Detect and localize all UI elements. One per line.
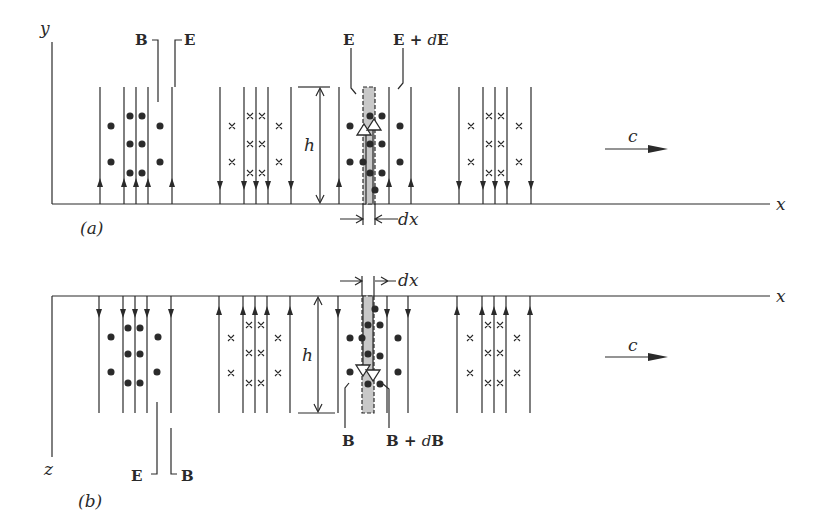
height-label-b: h <box>302 345 313 365</box>
b-field-lines-down-group1 <box>96 296 174 413</box>
e-label-a: E <box>184 31 195 49</box>
slab-e-plus-de-label: E + dE <box>393 31 449 49</box>
x-axis-label-a: x <box>776 194 786 214</box>
b-label-a: B <box>135 31 148 49</box>
e-field-lines-up-group1 <box>97 87 175 204</box>
e-label-b: E <box>131 467 142 485</box>
b-field-lines-up-group2 <box>216 296 293 413</box>
dx-label-a: dx <box>398 209 419 229</box>
slab-b-label: B <box>342 432 355 450</box>
panel-b-label: (b) <box>78 491 102 511</box>
x-axis-label-b: x <box>776 286 786 306</box>
slab-e-label: E <box>343 31 354 49</box>
height-label-a: h <box>304 135 315 155</box>
b-field-lines-up-group4 <box>454 296 533 413</box>
panel-a-label: (a) <box>80 218 103 238</box>
e-field-markers-b <box>108 306 520 387</box>
y-axis-label: y <box>39 18 50 38</box>
b-label-b: B <box>181 467 194 485</box>
c-label-a: c <box>628 126 638 146</box>
panel-a <box>52 40 770 225</box>
z-axis-label: z <box>43 459 54 479</box>
dx-label-b: dx <box>398 270 419 290</box>
em-wave-diagram: y x (a) B E E E + dE h dx c <box>0 0 824 528</box>
propagation-arrow-icon-b <box>648 353 668 361</box>
propagation-arrow-icon <box>648 145 668 153</box>
e-field-lines-down-group2 <box>217 87 294 204</box>
c-label-b: c <box>628 335 638 355</box>
slab-b-plus-db-label: B + dB <box>386 432 444 450</box>
e-field-lines-down-group4 <box>456 87 534 204</box>
